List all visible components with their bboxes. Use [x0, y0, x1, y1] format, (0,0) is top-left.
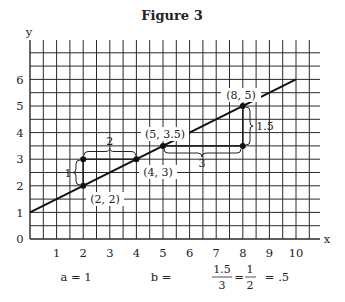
x-tick-3: 3	[106, 246, 113, 260]
x-tick-10: 10	[289, 246, 304, 260]
point-5-3.5	[160, 143, 166, 149]
point-4-3	[133, 156, 139, 162]
point-label-5-3.5: (5, 3.5)	[145, 128, 185, 141]
x-tick-6: 6	[186, 246, 193, 260]
y-tick-labels: 1 2 3 4 5 6	[16, 73, 23, 220]
point-label-8-5: (8, 5)	[226, 89, 256, 102]
point-2-2	[80, 183, 86, 189]
frac2-denominator: 2	[247, 279, 254, 292]
x-tick-1: 1	[53, 246, 60, 260]
y-tick-2: 2	[16, 179, 23, 193]
y-tick-4: 4	[16, 126, 23, 140]
frac1-numerator: 1.5	[213, 263, 231, 276]
formula-b: b = 1.5 3 = 1 2 = .5	[151, 263, 289, 292]
rise-label-small: 1	[65, 167, 72, 180]
point-8-3.5	[240, 143, 246, 149]
point-8-5	[240, 103, 246, 109]
y-tick-6: 6	[16, 73, 23, 87]
x-tick-2: 2	[80, 246, 87, 260]
run-label-small: 2	[106, 135, 113, 148]
x-tick-9: 9	[266, 246, 273, 260]
origin-label: 0	[16, 232, 23, 246]
x-tick-7: 7	[213, 246, 220, 260]
rise-bracket-large	[246, 107, 253, 145]
figure-3-diagram: Figure 3 y x 0 1 2 3 4 5 6 7 8 9 10 1 2 …	[0, 0, 345, 302]
x-tick-8: 8	[239, 246, 246, 260]
x-axis-label: x	[324, 232, 331, 246]
y-tick-3: 3	[16, 152, 23, 166]
formula-b-prefix: b =	[151, 270, 172, 284]
point-label-2-2: (2, 2)	[90, 193, 120, 206]
x-tick-4: 4	[133, 246, 140, 260]
formula-b-result: = .5	[265, 270, 289, 284]
y-tick-5: 5	[16, 99, 23, 113]
formula-a: a = 1	[60, 270, 91, 284]
run-label-large: 3	[199, 157, 206, 170]
rise-label-large: 1.5	[256, 120, 274, 133]
figure-title: Figure 3	[141, 8, 202, 23]
x-tick-5: 5	[159, 246, 166, 260]
y-tick-1: 1	[16, 206, 23, 220]
y-axis-label: y	[25, 25, 33, 39]
point-label-4-3: (4, 3)	[143, 166, 173, 179]
equals-sign: =	[234, 270, 244, 284]
frac1-denominator: 3	[219, 279, 226, 292]
point-2-3	[80, 156, 86, 162]
frac2-numerator: 1	[247, 263, 254, 276]
x-tick-labels: 1 2 3 4 5 6 7 8 9 10	[53, 246, 303, 260]
